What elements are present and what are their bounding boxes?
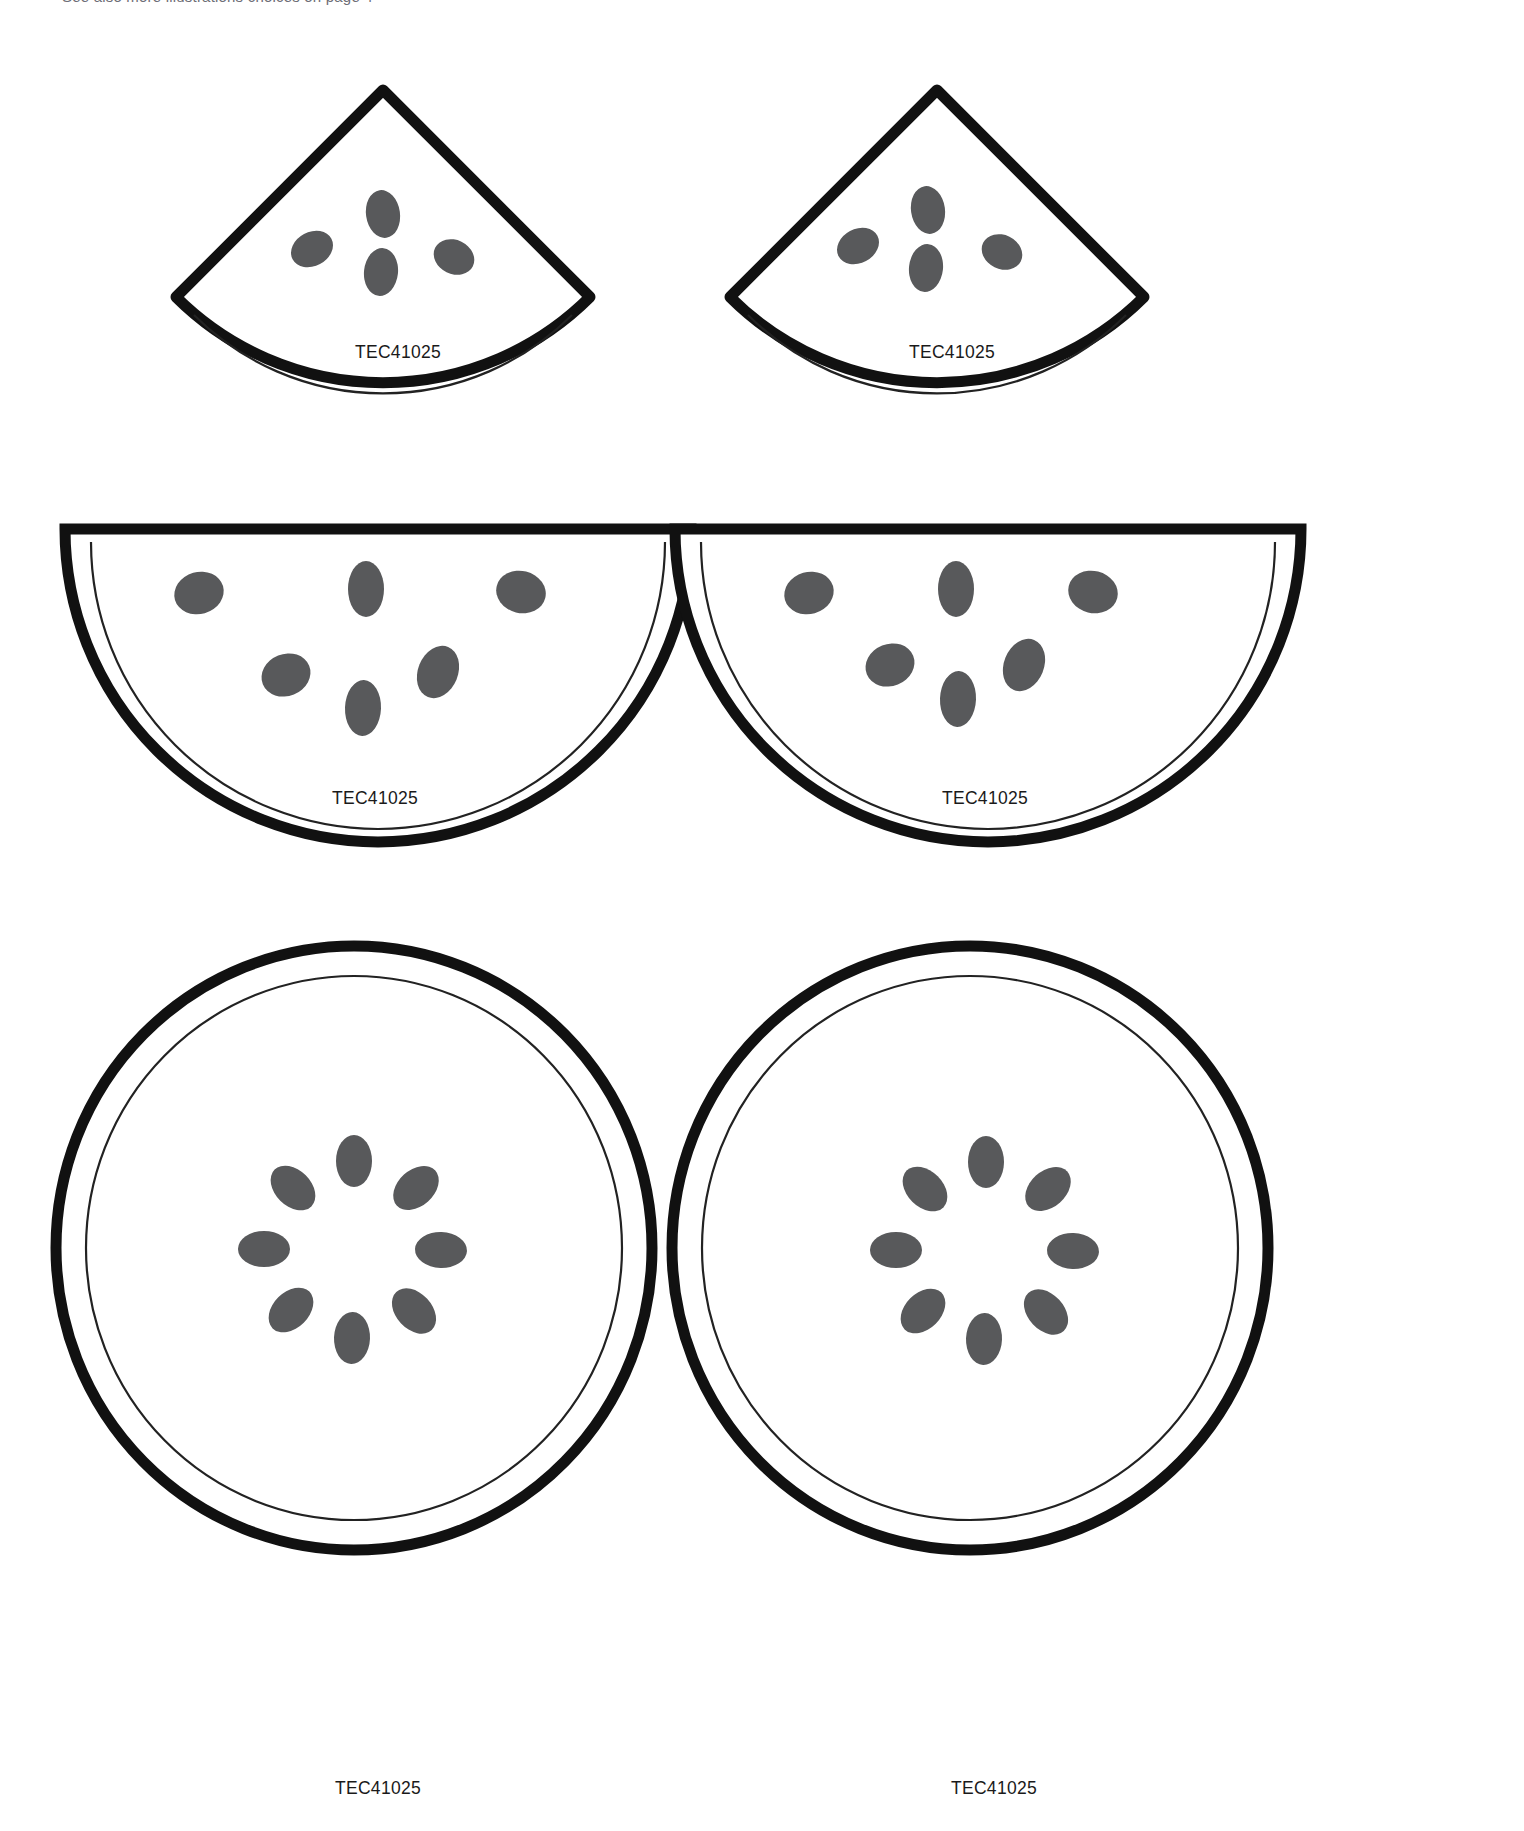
watermelon-half-left bbox=[58, 522, 698, 832]
wedge-left-label: TEC41025 bbox=[355, 342, 441, 363]
circle-outline bbox=[56, 946, 652, 1550]
wedge-outline bbox=[730, 90, 1144, 383]
seed bbox=[348, 561, 384, 617]
seed bbox=[870, 1232, 922, 1268]
page-header-strip: See also more illustrations choices on p… bbox=[0, 0, 1524, 10]
half-left-label: TEC41025 bbox=[332, 788, 418, 809]
seed bbox=[336, 1135, 372, 1187]
template-sheet: See also more illustrations choices on p… bbox=[0, 0, 1524, 1831]
page-header-note: See also more illustrations choices on p… bbox=[62, 0, 373, 5]
half-right-label: TEC41025 bbox=[942, 788, 1028, 809]
watermelon-half-right bbox=[668, 522, 1308, 832]
seed bbox=[238, 1231, 290, 1267]
seed bbox=[968, 1136, 1004, 1188]
wedge-right-label: TEC41025 bbox=[909, 342, 995, 363]
circle-outline bbox=[672, 946, 1268, 1550]
circle-right-label: TEC41025 bbox=[951, 1778, 1037, 1799]
circle-left-label: TEC41025 bbox=[335, 1778, 421, 1799]
watermelon-circle-left bbox=[48, 938, 660, 1558]
watermelon-circle-right bbox=[664, 938, 1276, 1558]
seed bbox=[938, 561, 974, 617]
